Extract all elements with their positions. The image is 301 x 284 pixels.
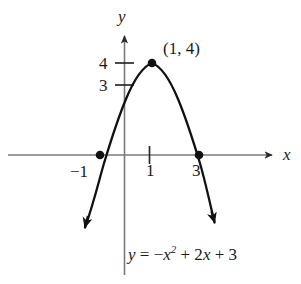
equation-lhs: y <box>128 245 136 264</box>
equation-equals: = <box>140 245 150 264</box>
curve-left-arrow <box>85 216 88 227</box>
vertex-point <box>148 59 157 68</box>
equation-label: y = −x2 + 2x + 3 <box>128 246 237 263</box>
y-axis-label: y <box>118 8 126 25</box>
plot-canvas <box>0 0 301 284</box>
equation-term2: + 2 <box>181 245 203 264</box>
x-axis-label: x <box>283 146 291 163</box>
x-intercept-left-point <box>96 151 105 160</box>
vertex-coordinate-label: (1, 4) <box>163 40 200 57</box>
equation-term1-sign: − <box>154 245 164 264</box>
y-tick-label-3: 3 <box>99 77 108 94</box>
equation-term2-var: x <box>203 245 211 264</box>
equation-term1-var: x <box>163 245 171 264</box>
curve-right-arrow <box>212 212 215 223</box>
x-tick-label-1: 1 <box>146 162 155 179</box>
parabola-figure: y x 4 3 −1 1 3 (1, 4) y = −x2 + 2x + 3 <box>0 0 301 284</box>
x-tick-label-3: 3 <box>192 162 201 179</box>
equation-term3: + 3 <box>215 245 237 264</box>
x-tick-label-minus-1: −1 <box>70 163 88 180</box>
x-intercept-right-point <box>195 151 204 160</box>
y-tick-label-4: 4 <box>99 55 108 72</box>
equation-term1-exponent: 2 <box>171 243 177 255</box>
